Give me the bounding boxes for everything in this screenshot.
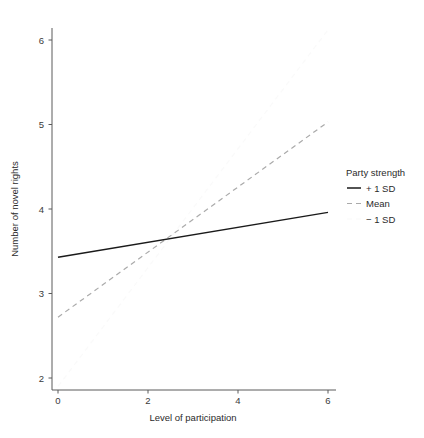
series-layer (58, 30, 328, 387)
line-chart: 234560246Level of participationNumber of… (0, 0, 424, 438)
y-tick-label: 3 (39, 288, 44, 299)
x-tick-label: 6 (325, 395, 330, 406)
y-axis-title: Number of novel rights (9, 161, 20, 257)
legend-entry-1-sd[interactable]: − 1 SD (347, 214, 395, 225)
y-tick-label: 6 (39, 35, 44, 46)
y-tick-label: 2 (39, 373, 44, 384)
axes-layer (49, 28, 337, 394)
y-tick-label: 5 (39, 119, 44, 130)
legend-entry-label: Mean (366, 198, 390, 209)
x-tick-label: 4 (235, 395, 240, 406)
legend-entry-1-sd[interactable]: + 1 SD (347, 183, 395, 194)
labels-layer: 234560246Level of participationNumber of… (9, 35, 331, 424)
legend-title: Party strength (346, 167, 405, 178)
legend-layer: Party strength+ 1 SDMean− 1 SD (346, 167, 405, 225)
y-tick-label: 4 (39, 204, 44, 215)
legend-entry-mean[interactable]: Mean (347, 198, 390, 209)
x-tick-label: 2 (145, 395, 150, 406)
legend-entry-label: + 1 SD (366, 183, 395, 194)
series-line-1-sd (58, 30, 328, 387)
legend-entry-label: − 1 SD (366, 214, 395, 225)
x-axis-title: Level of participation (149, 412, 236, 423)
x-tick-label: 0 (55, 395, 60, 406)
figure-container: 234560246Level of participationNumber of… (0, 0, 424, 438)
